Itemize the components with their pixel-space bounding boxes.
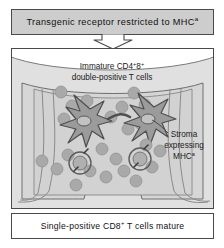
title-box: Transgenic receptor restricted to MHCa — [11, 9, 214, 35]
figure-panel: Transgenic receptor restricted to MHCa — [0, 0, 224, 248]
footer-text-part2: T cells mature — [125, 221, 185, 231]
footer-box: Single-positive CD8+ T cells mature — [11, 213, 214, 239]
thymus-diagram: Immature CD4+8+ double-positive T cells … — [11, 48, 214, 209]
thymus-svg: Immature CD4+8+ double-positive T cells … — [12, 49, 213, 208]
title-text-main: Transgenic receptor restricted to MHC — [26, 17, 194, 27]
stroma-label-line1: Stroma — [171, 130, 198, 139]
title-text-superscript: a — [195, 15, 199, 22]
immature-t-cell-label-line2: double-positive T cells — [72, 73, 153, 82]
stroma-label-mhc: MHC — [173, 152, 192, 161]
label-immature-sup2: + — [141, 61, 144, 67]
stroma-label-line2: expressing — [164, 141, 204, 150]
footer-text: Single-positive CD8+ T cells mature — [41, 221, 185, 231]
label-immature-part1: Immature CD4 — [80, 62, 134, 71]
footer-text-part1: Single-positive CD8 — [41, 221, 121, 231]
title-text: Transgenic receptor restricted to MHCa — [26, 17, 198, 27]
